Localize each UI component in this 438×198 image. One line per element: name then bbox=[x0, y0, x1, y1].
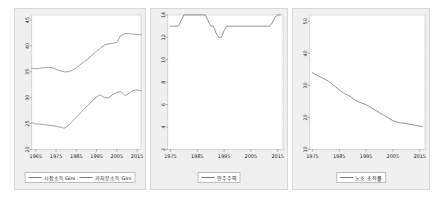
svg-text:2015: 2015 bbox=[131, 153, 144, 159]
svg-text:2015: 2015 bbox=[413, 153, 426, 159]
svg-text:40: 40 bbox=[24, 43, 30, 49]
svg-text:1995: 1995 bbox=[218, 153, 231, 159]
legend-entry-union-density: 노조 조직률 bbox=[340, 174, 382, 181]
svg-text:2005: 2005 bbox=[245, 153, 258, 159]
panel-union-density-plot-group: 102030405019751985199520052015 bbox=[302, 15, 426, 159]
svg-text:25: 25 bbox=[24, 120, 30, 126]
svg-text:2005: 2005 bbox=[387, 153, 400, 159]
svg-text:45: 45 bbox=[24, 17, 30, 23]
svg-text:30: 30 bbox=[24, 95, 30, 101]
svg-text:20: 20 bbox=[24, 146, 30, 152]
svg-text:12: 12 bbox=[160, 34, 166, 40]
panel-democracy-svg: 246810121419751985199520052015 bbox=[151, 9, 287, 189]
chart-panel-gini: 202530354045196519751985199520052015 시장소… bbox=[14, 8, 146, 190]
svg-text:2: 2 bbox=[160, 148, 166, 151]
svg-text:1985: 1985 bbox=[333, 153, 346, 159]
svg-text:14: 14 bbox=[160, 12, 166, 18]
svg-text:2015: 2015 bbox=[271, 153, 284, 159]
legend-entry-market-income-gini: 시장소득 Gini bbox=[29, 174, 75, 181]
panel-gini-svg: 202530354045196519751985199520052015 bbox=[15, 9, 145, 189]
multi-panel-chart-figure: 202530354045196519751985199520052015 시장소… bbox=[0, 0, 438, 198]
svg-text:30: 30 bbox=[302, 82, 308, 88]
legend-line-icon bbox=[340, 177, 353, 178]
svg-text:20: 20 bbox=[302, 114, 308, 120]
svg-text:1975: 1975 bbox=[164, 153, 177, 159]
svg-text:50: 50 bbox=[302, 18, 308, 24]
panel-gini-plot-group: 202530354045196519751985199520052015 bbox=[24, 15, 143, 159]
legend-entry-disposable-income-gini: 가처분소득 Gini bbox=[80, 174, 131, 181]
legend-union-density: 노조 조직률 bbox=[336, 172, 386, 183]
svg-text:1975: 1975 bbox=[50, 153, 63, 159]
legend-label-democracy: 민주주의 bbox=[217, 174, 237, 181]
svg-text:10: 10 bbox=[302, 146, 308, 152]
svg-text:1985: 1985 bbox=[191, 153, 204, 159]
svg-text:6: 6 bbox=[160, 103, 166, 106]
svg-text:1995: 1995 bbox=[360, 153, 373, 159]
svg-text:8: 8 bbox=[160, 81, 166, 84]
legend-label-market-income-gini: 시장소득 Gini bbox=[44, 174, 75, 181]
svg-text:4: 4 bbox=[160, 125, 166, 128]
svg-text:1995: 1995 bbox=[90, 153, 103, 159]
svg-text:1975: 1975 bbox=[306, 153, 319, 159]
chart-panel-union-density: 102030405019751985199520052015 노조 조직률 bbox=[292, 8, 430, 190]
chart-panel-democracy: 246810121419751985199520052015 민주주의 bbox=[150, 8, 288, 190]
legend-entry-democracy: 민주주의 bbox=[202, 174, 237, 181]
legend-line-icon bbox=[202, 177, 215, 178]
legend-label-disposable-income-gini: 가처분소득 Gini bbox=[95, 174, 131, 181]
svg-text:35: 35 bbox=[24, 69, 30, 75]
panel-union-density-svg: 102030405019751985199520052015 bbox=[293, 9, 429, 189]
legend-gini: 시장소득 Gini 가처분소득 Gini bbox=[25, 172, 136, 183]
legend-democracy: 민주주의 bbox=[198, 172, 241, 183]
svg-text:1985: 1985 bbox=[70, 153, 83, 159]
panel-democracy-plot-group: 246810121419751985199520052015 bbox=[160, 12, 284, 160]
legend-label-union-density: 노조 조직률 bbox=[355, 174, 382, 181]
svg-text:1965: 1965 bbox=[30, 153, 43, 159]
svg-text:2005: 2005 bbox=[111, 153, 124, 159]
legend-line-icon bbox=[80, 177, 93, 178]
svg-text:40: 40 bbox=[302, 50, 308, 56]
svg-text:10: 10 bbox=[160, 57, 166, 63]
legend-line-icon bbox=[29, 177, 42, 178]
